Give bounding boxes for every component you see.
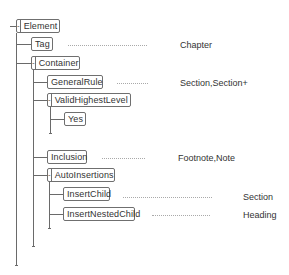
- autoinsertions-children-line: [49, 182, 50, 228]
- connector: [50, 119, 64, 120]
- connector: [33, 100, 47, 101]
- connector-end: [48, 228, 51, 229]
- leader-line: [102, 158, 145, 159]
- node-yes[interactable]: Yes: [64, 112, 86, 126]
- connector: [16, 44, 31, 45]
- leader-line: [123, 197, 212, 198]
- value-inclusion: Footnote,Note: [178, 153, 235, 164]
- node-label: Element: [21, 20, 61, 32]
- node-insertnestedchild[interactable]: InsertNestedChild: [63, 207, 135, 221]
- element-children-line: [16, 33, 17, 265]
- connector: [33, 82, 47, 83]
- leader-line: [68, 45, 147, 46]
- value-tag: Chapter: [180, 40, 212, 51]
- connector: [33, 175, 47, 176]
- node-label: ValidHighestLevel: [52, 94, 131, 106]
- node-validhighestlevel[interactable]: - ValidHighestLevel: [47, 93, 131, 107]
- connector-end: [32, 246, 35, 247]
- node-generalrule[interactable]: GeneralRule: [47, 75, 103, 89]
- leader-line: [152, 215, 210, 216]
- node-tag[interactable]: Tag: [31, 37, 53, 51]
- connector: [33, 157, 47, 158]
- node-label: AutoInsertions: [52, 169, 117, 181]
- connector-end: [15, 265, 18, 266]
- value-insertnestedchild: Heading: [243, 210, 277, 221]
- node-autoinsertions[interactable]: - AutoInsertions: [47, 168, 115, 182]
- value-generalrule: Section,Section+: [180, 78, 248, 89]
- node-label: InsertNestedChild: [64, 208, 143, 220]
- connector: [49, 214, 63, 215]
- node-label: Inclusion: [48, 151, 90, 163]
- connector: [49, 194, 63, 195]
- value-insertchild: Section: [243, 192, 273, 203]
- leader-line: [117, 83, 148, 84]
- node-element[interactable]: - Element: [16, 19, 60, 33]
- node-label: InsertChild: [64, 188, 114, 200]
- node-inclusion[interactable]: Inclusion: [47, 150, 87, 164]
- connector: [16, 63, 31, 64]
- node-insertchild[interactable]: InsertChild: [63, 187, 110, 201]
- node-label: Container: [36, 57, 82, 69]
- container-children-line: [33, 70, 34, 246]
- connector-end: [49, 133, 52, 134]
- node-label: Yes: [65, 113, 86, 125]
- validhighestlevel-children-line: [50, 107, 51, 133]
- node-label: Tag: [32, 38, 53, 50]
- node-container[interactable]: - Container: [31, 56, 80, 70]
- node-label: GeneralRule: [48, 76, 106, 88]
